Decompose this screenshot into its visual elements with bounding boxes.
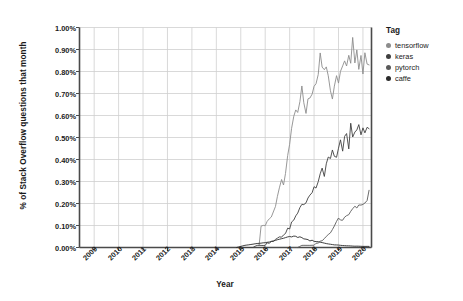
chart-legend: Tag tensorflowkeraspytorchcaffe — [386, 26, 462, 84]
y-tick-label: 0.00% — [36, 243, 76, 252]
legend-items: tensorflowkeraspytorchcaffe — [386, 40, 462, 83]
legend-item-tensorflow[interactable]: tensorflow — [386, 40, 462, 50]
y-tick-label: 0.70% — [36, 89, 76, 98]
legend-marker-icon — [386, 54, 391, 59]
y-tick-label: 0.40% — [36, 155, 76, 164]
y-tick-label: 1.00% — [36, 23, 76, 32]
y-tick-label: 0.50% — [36, 133, 76, 142]
y-axis-title: % of Stack Overflow questions that month — [19, 41, 28, 209]
series-line-keras — [241, 123, 369, 247]
legend-item-pytorch[interactable]: pytorch — [386, 62, 462, 72]
legend-item-label: keras — [395, 52, 413, 61]
y-tick-label: 0.80% — [36, 67, 76, 76]
legend-marker-icon — [386, 43, 391, 48]
y-tick-label: 0.10% — [36, 221, 76, 230]
legend-title: Tag — [386, 26, 462, 35]
y-tick-label: 0.90% — [36, 45, 76, 54]
legend-item-label: caffe — [395, 74, 411, 83]
legend-item-label: pytorch — [395, 63, 419, 72]
y-tick-label: 0.30% — [36, 177, 76, 186]
legend-item-caffe[interactable]: caffe — [386, 73, 462, 83]
chart-figure: % of Stack Overflow questions that month… — [0, 0, 463, 301]
legend-item-keras[interactable]: keras — [386, 51, 462, 61]
y-tick-label: 0.60% — [36, 111, 76, 120]
x-axis-title: Year — [79, 280, 371, 289]
legend-marker-icon — [386, 76, 391, 81]
y-tick-label: 0.20% — [36, 199, 76, 208]
legend-item-label: tensorflow — [395, 41, 429, 50]
y-axis-title-container: % of Stack Overflow questions that month — [14, 0, 32, 250]
series-line-pytorch — [290, 190, 369, 247]
legend-marker-icon — [386, 65, 391, 70]
